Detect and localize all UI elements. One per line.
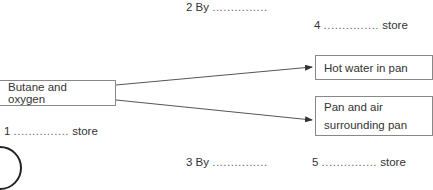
source-box: Butane and oxygen	[0, 80, 116, 106]
blank-2[interactable]: 2 By ...............	[186, 1, 268, 13]
target-box-pan-and-air: Pan and air surrounding pan	[315, 96, 433, 136]
target-label-line2: surrounding pan	[324, 116, 407, 134]
blank-4-number: 4	[314, 19, 320, 31]
blank-3-dots: ...............	[212, 156, 267, 168]
blank-1-number: 1	[4, 125, 10, 137]
blank-4[interactable]: 4 ............... store	[314, 19, 408, 31]
blank-4-dots: ...............	[324, 19, 379, 31]
blank-5[interactable]: 5 ............... store	[312, 156, 406, 168]
source-label: Butane and oxygen	[8, 81, 107, 105]
blank-1-dots: ...............	[14, 125, 69, 137]
target-label-hot-water: Hot water in pan	[324, 62, 408, 74]
target-box-hot-water: Hot water in pan	[315, 55, 433, 80]
blank-2-dots: ...............	[212, 1, 267, 13]
blank-1[interactable]: 1 ............... store	[4, 125, 98, 137]
blank-5-number: 5	[312, 156, 318, 168]
arrow-to-pan-and-air	[116, 100, 312, 120]
blank-1-suffix: store	[72, 125, 98, 137]
blank-4-suffix: store	[382, 19, 408, 31]
blank-3-number: 3 By	[186, 156, 209, 168]
blank-2-number: 2 By	[186, 1, 209, 13]
arrow-to-hot-water	[116, 67, 312, 85]
target-label-line1: Pan and air	[324, 98, 383, 116]
blank-3[interactable]: 3 By ...............	[186, 156, 268, 168]
blank-5-dots: ...............	[322, 156, 377, 168]
blank-5-suffix: store	[380, 156, 406, 168]
